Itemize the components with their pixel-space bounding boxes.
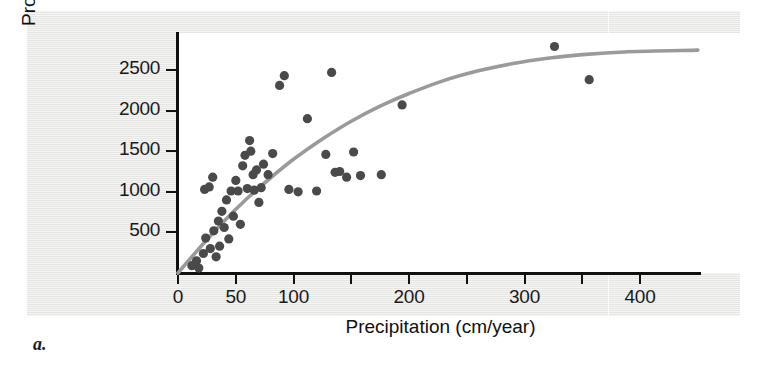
scatter-point bbox=[327, 68, 336, 77]
scatter-point bbox=[215, 242, 224, 251]
scatter-point bbox=[275, 81, 284, 90]
scatter-point bbox=[206, 244, 215, 253]
scatter-point bbox=[321, 150, 330, 159]
scatter-point bbox=[224, 234, 233, 243]
y-axis-title-prefix: Productivity (g/m bbox=[18, 0, 39, 26]
scatter-point bbox=[268, 149, 277, 158]
scatter-point bbox=[264, 170, 273, 179]
scatter-point bbox=[217, 207, 226, 216]
x-axis-title: Precipitation (cm/year) bbox=[178, 316, 703, 338]
scatter-point bbox=[259, 160, 268, 169]
scatter-point bbox=[194, 264, 203, 273]
scatter-point bbox=[280, 71, 289, 80]
fitted-curve bbox=[178, 50, 698, 273]
scatter-point bbox=[201, 234, 210, 243]
scatter-point bbox=[234, 186, 243, 195]
scatter-point bbox=[398, 100, 407, 109]
scatter-plot-svg bbox=[0, 0, 767, 365]
scatter-point bbox=[246, 147, 255, 156]
scatter-point bbox=[550, 42, 559, 51]
scatter-point bbox=[236, 220, 245, 229]
scatter-point bbox=[303, 114, 312, 123]
scatter-point bbox=[257, 183, 266, 192]
scatter-point bbox=[209, 226, 218, 235]
scatter-point bbox=[377, 170, 386, 179]
scatter-point bbox=[349, 147, 358, 156]
scatter-point bbox=[585, 75, 594, 84]
scatter-point bbox=[356, 171, 365, 180]
y-axis-title: Productivity (g/m2/year) bbox=[18, 0, 42, 26]
panel-label: a. bbox=[33, 334, 47, 355]
scatter-point bbox=[222, 195, 231, 204]
scatter-point bbox=[294, 187, 303, 196]
scatter-point bbox=[238, 161, 247, 170]
scatter-point bbox=[212, 252, 221, 261]
scatter-point bbox=[220, 223, 229, 232]
figure-panel: 5001000150020002500 050100200300400 Prec… bbox=[0, 0, 767, 365]
scatter-point bbox=[284, 185, 293, 194]
scatter-point bbox=[208, 173, 217, 182]
scatter-points bbox=[187, 42, 594, 273]
scatter-point bbox=[231, 176, 240, 185]
scatter-point bbox=[254, 198, 263, 207]
scatter-point bbox=[229, 212, 238, 221]
scatter-point bbox=[342, 173, 351, 182]
scatter-point bbox=[245, 136, 254, 145]
scatter-point bbox=[205, 182, 214, 191]
scatter-point bbox=[312, 186, 321, 195]
